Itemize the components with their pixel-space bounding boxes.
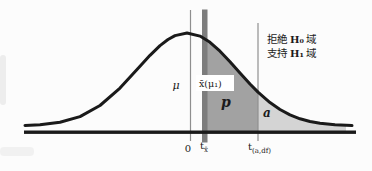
annotation-support-action: 支持 (267, 47, 288, 59)
mu-label: μ (172, 79, 179, 92)
annotation-support-h1: 支持H₁域 (267, 47, 317, 59)
annotation-support-h: H₁ (290, 48, 304, 59)
alpha-region-label: a (263, 106, 271, 120)
tick-t-crit: t(a,df) (248, 141, 271, 155)
xbar-label: x̄(μ₁) (199, 78, 222, 89)
annotation-reject-region: 域 (306, 33, 317, 45)
bell-curve (25, 33, 352, 126)
annotation-reject-action: 拒絶 (267, 33, 288, 45)
p-region-label: p (221, 94, 231, 110)
x-axis (24, 131, 356, 134)
tick-t-crit-sub: (a,df) (252, 147, 271, 155)
annotation-support-region: 域 (306, 47, 317, 59)
distribution-plot: μ x̄(μ₁) p a 0 tx̄ t(a,df) 拒絶H₀域 支持H₁域 (0, 0, 372, 171)
annotation-reject-h0: 拒絶H₀域 (267, 33, 317, 45)
annotation-reject-h: H₀ (290, 34, 304, 45)
hypothesis-test-distribution-figure: μ x̄(μ₁) p a 0 tx̄ t(a,df) 拒絶H₀域 支持H₁域 (0, 0, 372, 171)
tick-t-xbar-sub: x̄ (204, 146, 208, 154)
tick-zero: 0 (185, 143, 191, 154)
